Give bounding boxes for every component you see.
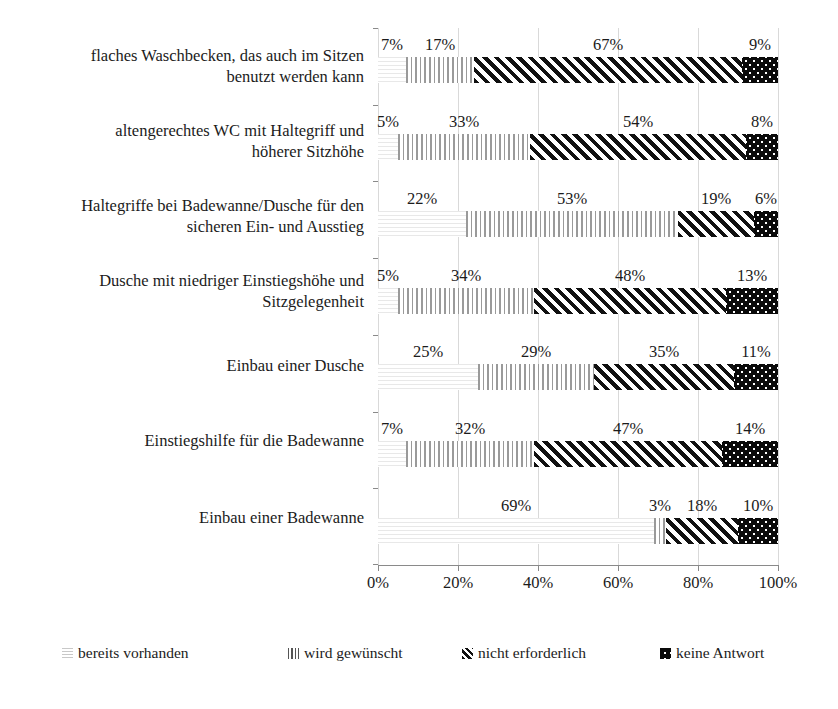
segment-value-label: 5% [377,112,399,132]
segment-value-label: 10% [743,496,773,516]
legend-item[interactable]: nicht erforderlich [462,644,586,662]
segment-value-label: 6% [755,189,777,209]
bar-segment-black-dotted [746,134,778,160]
segment-value-label: 53% [557,189,587,209]
legend-item[interactable]: wird gewünscht [288,644,403,662]
bar-segment-light-horizontal-lines [378,441,406,467]
bar-segment-light-horizontal-lines [378,134,398,160]
y-axis-tick [373,335,378,336]
segment-value-label: 8% [751,112,773,132]
bar-segment-black-dotted [722,441,778,467]
bar-segment-black-dotted [742,57,778,83]
vertical-lines-swatch [288,648,299,659]
bar-segment-black-dotted [738,518,778,544]
segment-value-label: 5% [377,266,399,286]
bar-segment-light-horizontal-lines [378,211,466,237]
segment-value-label: 19% [701,189,731,209]
x-axis-tick [458,565,459,571]
segment-value-label: 3% [649,496,671,516]
bar-segment-diagonal-stripes [474,57,742,83]
segment-value-label: 25% [413,342,443,362]
segment-value-label: 7% [381,35,403,55]
bar-segment-vertical-lines [466,211,678,237]
segment-value-label: 47% [613,419,643,439]
bar-segment-vertical-lines [406,441,534,467]
legend-item-label: keine Antwort [676,644,764,662]
bar-segment-diagonal-stripes [678,211,754,237]
segment-value-label: 34% [451,266,481,286]
stacked-bar-chart: flaches Waschbecken, das auch im Sitzen … [0,0,838,709]
legend-item-label: bereits vorhanden [78,644,189,662]
legend-item[interactable]: keine Antwort [660,644,764,662]
y-axis-tick [373,181,378,182]
bar-segment-vertical-lines [478,364,594,390]
segment-value-label: 54% [623,112,653,132]
bar-row [378,134,778,160]
chart-legend: bereits vorhandenwird gewünschtnicht erf… [0,636,838,676]
legend-item[interactable]: bereits vorhanden [62,644,189,662]
x-axis-tick-label: 0% [367,573,389,593]
bar-segment-diagonal-stripes [530,134,746,160]
bar-segment-vertical-lines [406,57,474,83]
diagonal-stripes-swatch [462,648,473,659]
bar-segment-diagonal-stripes [534,441,722,467]
x-axis-tick-label: 60% [603,573,633,593]
bar-segment-diagonal-stripes [534,288,726,314]
light-horizontal-lines-swatch [62,648,73,659]
segment-value-label: 7% [381,419,403,439]
bar-row [378,211,778,237]
gridline-100pct [778,28,779,565]
category-labels: flaches Waschbecken, das auch im Sitzen … [0,0,372,545]
bar-segment-light-horizontal-lines [378,57,406,83]
segment-value-label: 9% [749,35,771,55]
segment-value-label: 35% [649,342,679,362]
segment-value-label: 18% [687,496,717,516]
bar-row [378,364,778,390]
segment-value-label: 48% [615,266,645,286]
segment-value-label: 11% [741,342,771,362]
bar-segment-black-dotted [754,211,778,237]
segment-value-label: 69% [501,496,531,516]
segment-value-label: 67% [593,35,623,55]
category-label-2: Haltegriffe bei Badewanne/Dusche für den… [0,195,372,237]
bar-row [378,288,778,314]
y-axis-tick [373,258,378,259]
category-label-0: flaches Waschbecken, das auch im Sitzen … [0,45,372,87]
x-axis-tick-label: 40% [523,573,553,593]
bar-segment-black-dotted [734,364,778,390]
bar-segment-diagonal-stripes [594,364,734,390]
bar-segment-light-horizontal-lines [378,364,478,390]
x-axis-tick [378,565,379,571]
x-axis-tick-label: 80% [683,573,713,593]
y-axis-tick [373,412,378,413]
category-label-1: altengerechtes WC mit Haltegriff und höh… [0,120,372,162]
segment-value-label: 32% [455,419,485,439]
segment-value-label: 29% [521,342,551,362]
bar-segment-light-horizontal-lines [378,518,654,544]
bar-row [378,57,778,83]
bar-segment-diagonal-stripes [666,518,738,544]
x-axis-tick-label: 20% [443,573,473,593]
bar-segment-vertical-lines [654,518,666,544]
bar-segment-vertical-lines [398,288,534,314]
segment-value-label: 33% [449,112,479,132]
bar-segment-vertical-lines [398,134,530,160]
x-axis-tick [618,565,619,571]
category-label-4: Einbau einer Dusche [0,355,372,376]
segment-value-label: 22% [407,189,437,209]
segment-value-label: 13% [737,266,767,286]
plot-area: 7%17%67%9%5%33%54%8%22%53%19%6%5%34%48%1… [378,28,778,565]
x-axis-tick [778,565,779,571]
y-axis-tick [373,28,378,29]
x-axis-tick [538,565,539,571]
y-axis-tick [373,105,378,106]
segment-value-label: 17% [425,35,455,55]
legend-item-label: nicht erforderlich [478,644,586,662]
bar-segment-light-horizontal-lines [378,288,398,314]
bar-row [378,518,778,544]
category-label-3: Dusche mit niedriger Einstiegshöhe und S… [0,270,372,312]
bar-row [378,441,778,467]
x-axis-tick [698,565,699,571]
black-dotted-swatch [660,648,671,659]
x-axis-tick-label: 100% [759,573,798,593]
